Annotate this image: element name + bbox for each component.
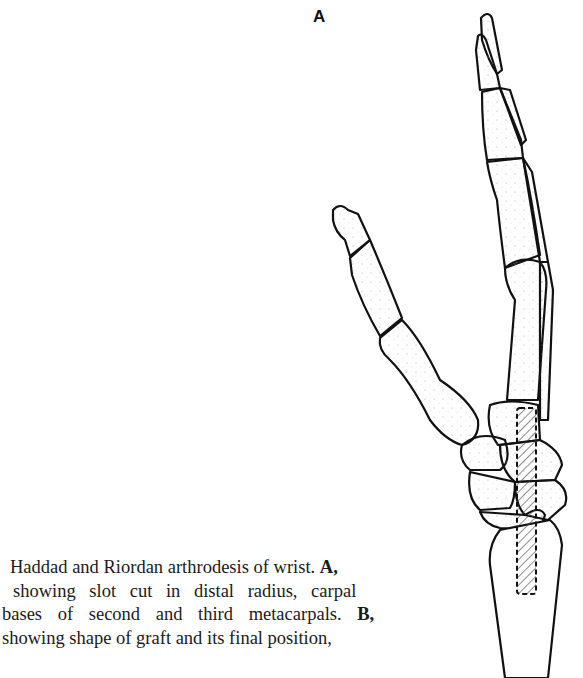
caption-line-1: Haddad and Riordan arthrodesis of wrist.… (0, 556, 480, 580)
caption-line-4: showing shape of graft and its final pos… (0, 627, 480, 651)
caption-line-3: bases of second and third metacarpals. B… (0, 603, 480, 627)
caption-line-2: showing slot cut in distal radius, carpa… (0, 580, 480, 604)
graft-slot (517, 408, 536, 594)
figure-caption: Haddad and Riordan arthrodesis of wrist.… (0, 556, 480, 650)
